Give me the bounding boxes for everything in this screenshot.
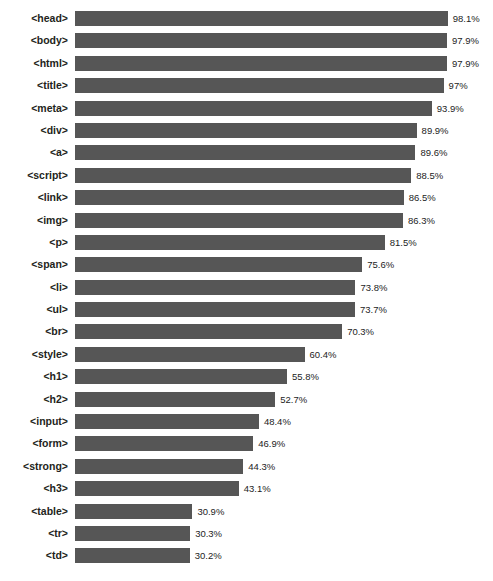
bar-category-label: <style> [0,347,68,362]
bar [75,168,411,183]
bar-track: 75.6% [75,257,493,272]
chart-title [0,0,493,2]
bar-category-label: <meta> [0,101,68,116]
bar-track: 89.6% [75,145,493,160]
bar-category-label: <form> [0,436,68,451]
bar-value-label: 81.5% [385,235,417,250]
bar [75,504,192,519]
bar [75,369,287,384]
bar-track: 46.9% [75,436,493,451]
bar-category-label: <table> [0,504,68,519]
bar [75,414,259,429]
bar-category-label: <a> [0,145,68,160]
bar-row: <style>60.4% [0,347,493,369]
bar-row: <input>48.4% [0,414,493,436]
bar-track: 73.7% [75,302,493,317]
bar-value-label: 93.9% [432,101,464,116]
bar-value-label: 60.4% [305,347,337,362]
bar [75,392,275,407]
bar [75,436,253,451]
bar-track: 30.3% [75,526,493,541]
bar-track: 52.7% [75,392,493,407]
bar-row: <h2>52.7% [0,392,493,414]
bar-row: <form>46.9% [0,436,493,458]
bar-value-label: 75.6% [362,257,394,272]
bar-value-label: 30.9% [192,504,224,519]
bar [75,481,239,496]
bar-track: 30.9% [75,504,493,519]
bar [75,101,432,116]
bar [75,526,190,541]
bar-value-label: 48.4% [259,414,291,429]
bar-row: <ul>73.7% [0,302,493,324]
bar-row: <link>86.5% [0,190,493,212]
bar-value-label: 73.8% [355,280,387,295]
bar [75,33,447,48]
bar-value-label: 44.3% [243,459,275,474]
bar-category-label: <div> [0,123,68,138]
bar-value-label: 88.5% [411,168,443,183]
bar-track: 97.9% [75,56,493,71]
bar-row: <li>73.8% [0,280,493,302]
bar-category-label: <img> [0,213,68,228]
bar-row: <td>30.2% [0,548,493,570]
bar [75,78,444,93]
bar-row: <p>81.5% [0,235,493,257]
bar-category-label: <script> [0,168,68,183]
bar-track: 97.9% [75,33,493,48]
bar-track: 73.8% [75,280,493,295]
bar-row: <script>88.5% [0,168,493,190]
bar [75,280,355,295]
bar-value-label: 55.8% [287,369,319,384]
bar-category-label: <td> [0,548,68,563]
bar-chart: <head>98.1%<body>97.9%<html>97.9%<title>… [0,0,493,581]
bar-category-label: <strong> [0,459,68,474]
bar-category-label: <h2> [0,392,68,407]
bar [75,190,404,205]
bar-category-label: <span> [0,257,68,272]
bar-row: <strong>44.3% [0,459,493,481]
bar-category-label: <link> [0,190,68,205]
bar-row: <meta>93.9% [0,101,493,123]
bar-rows: <head>98.1%<body>97.9%<html>97.9%<title>… [0,11,493,571]
bar-category-label: <tr> [0,526,68,541]
bar-row: <head>98.1% [0,11,493,33]
bar-category-label: <br> [0,324,68,339]
bar-category-label: <input> [0,414,68,429]
bar-track: 70.3% [75,324,493,339]
bar-value-label: 73.7% [355,302,387,317]
bar-category-label: <li> [0,280,68,295]
bar-row: <html>97.9% [0,56,493,78]
bar-row: <h1>55.8% [0,369,493,391]
bar-category-label: <html> [0,56,68,71]
bar-row: <body>97.9% [0,33,493,55]
bar [75,548,190,563]
bar [75,324,342,339]
bar [75,459,243,474]
bar-value-label: 89.9% [417,123,449,138]
bar-row: <div>89.9% [0,123,493,145]
bar-track: 86.5% [75,190,493,205]
bar-value-label: 98.1% [448,11,480,26]
bar-category-label: <h3> [0,481,68,496]
bar-track: 60.4% [75,347,493,362]
bar-category-label: <ul> [0,302,68,317]
bar-row: <table>30.9% [0,504,493,526]
bar-track: 30.2% [75,548,493,563]
bar [75,11,448,26]
bar-row: <img>86.3% [0,213,493,235]
bar-category-label: <head> [0,11,68,26]
bar-category-label: <title> [0,78,68,93]
bar-value-label: 30.3% [190,526,222,541]
bar-value-label: 70.3% [342,324,374,339]
bar-track: 44.3% [75,459,493,474]
bar [75,347,305,362]
bar-value-label: 89.6% [415,145,447,160]
bar-row: <title>97% [0,78,493,100]
bar [75,56,447,71]
bar [75,235,385,250]
bar-value-label: 52.7% [275,392,307,407]
bar-value-label: 97% [444,78,468,93]
bar-track: 89.9% [75,123,493,138]
bar-track: 55.8% [75,369,493,384]
